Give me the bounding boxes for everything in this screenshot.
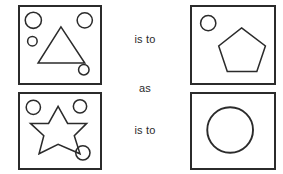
- circle-small-middle-left: [28, 36, 38, 46]
- panel-top-left: [18, 5, 102, 85]
- relation-label-as: as: [110, 82, 180, 95]
- panel-top-right-figure: [192, 7, 274, 83]
- panel-top-right: [190, 5, 276, 85]
- pentagon-shape: [219, 28, 266, 72]
- panel-bottom-left-figure: [20, 94, 100, 168]
- panel-bottom-right-figure: [192, 94, 274, 168]
- panel-top-left-figure: [20, 7, 100, 83]
- relation-label-is-to-top: is to: [110, 33, 180, 46]
- circle-large-upper-right: [77, 13, 92, 28]
- panel-bottom-left: [18, 92, 102, 170]
- analogy-puzzle: is to as is to: [0, 0, 283, 174]
- triangle-shape: [38, 27, 85, 63]
- circle-upper-left: [26, 100, 40, 114]
- circle-upper-right: [73, 100, 86, 113]
- large-circle-shape: [207, 107, 253, 153]
- circle-large-upper-left: [25, 12, 41, 28]
- circle-upper-left: [201, 16, 216, 31]
- relation-label-is-to-bottom: is to: [110, 124, 180, 137]
- circle-small-lower-right: [79, 64, 89, 74]
- panel-bottom-right: [190, 92, 276, 170]
